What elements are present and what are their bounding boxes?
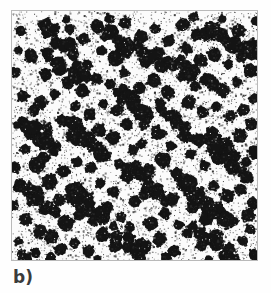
micrograph-image — [12, 11, 257, 260]
panel-label: b) — [13, 266, 33, 288]
micrograph-panel — [11, 10, 258, 261]
figure-root: b) — [0, 0, 271, 293]
